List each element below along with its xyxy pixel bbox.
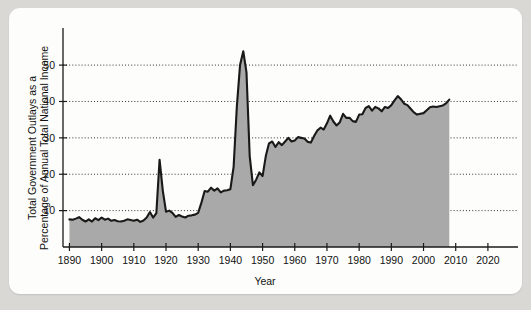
x-tick-label-1920: 1920 [154, 254, 178, 266]
x-tick-label-2010: 2010 [444, 254, 468, 266]
area-fill-total-government-outlays [69, 51, 449, 247]
x-tick-label-1950: 1950 [251, 254, 275, 266]
x-tick-label-1960: 1960 [283, 254, 307, 266]
x-tick-label-2020: 2020 [476, 254, 500, 266]
x-tick-label-1930: 1930 [187, 254, 211, 266]
figure-root: 1020304050 18901900191019201930194019501… [0, 0, 531, 310]
y-axis-title-line-1: Total Government Outlays as a [26, 76, 38, 220]
x-tick-label-1890: 1890 [58, 254, 82, 266]
x-tick-label-1900: 1900 [90, 254, 114, 266]
y-axis-title-line-2: Percentage of Annual Total National Inco… [38, 46, 50, 250]
x-tick-label-1970: 1970 [315, 254, 339, 266]
chart-panel: 1020304050 18901900191019201930194019501… [9, 8, 522, 294]
x-tick-label-1940: 1940 [219, 254, 243, 266]
series-group [69, 51, 449, 247]
x-tick-label-1990: 1990 [380, 254, 404, 266]
x-tick-label-2000: 2000 [412, 254, 436, 266]
x-tick-label-1910: 1910 [122, 254, 146, 266]
chart-svg: 1020304050 18901900191019201930194019501… [9, 8, 522, 294]
x-axis-title: Year [254, 275, 276, 287]
x-tick-label-1980: 1980 [347, 254, 371, 266]
